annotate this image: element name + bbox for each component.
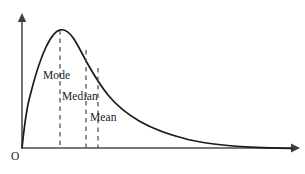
skewed-distribution-figure: Mode Median Mean O — [0, 0, 305, 174]
figure-canvas — [0, 0, 305, 174]
median-label: Median — [62, 91, 98, 103]
mode-label: Mode — [43, 70, 70, 82]
mean-label: Mean — [90, 112, 117, 124]
origin-label: O — [11, 151, 19, 163]
y-axis-arrowhead — [18, 13, 26, 22]
